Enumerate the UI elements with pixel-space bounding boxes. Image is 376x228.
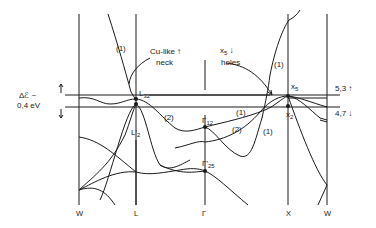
neck-label: neck [156, 58, 173, 67]
band-label-1d: (1) [274, 60, 284, 69]
band-plot [0, 0, 376, 228]
band-label-1b: (1) [236, 108, 246, 117]
level-upper-value: 5,3 ↑ [335, 84, 352, 93]
label-L32: L32 [139, 89, 150, 101]
cu-like-label: Cu-like ↑ [150, 47, 181, 56]
axis-label-gamma: Γ [202, 209, 206, 218]
band-label-1: (1) [116, 44, 126, 53]
axis-label-W2: W [324, 209, 331, 218]
axis-label-L: L [134, 209, 138, 218]
label-x5: x5 [291, 82, 298, 94]
band-label-2: (2) [164, 113, 174, 122]
label-x2: x2 [286, 110, 293, 122]
holes-label: holes [221, 58, 240, 67]
x5-holes-label: x5 ↓ [220, 46, 234, 58]
axis-label-W: W [76, 209, 83, 218]
label-L2-prime: L'2 [131, 128, 140, 140]
level-lower-value: 4,7 ↓ [335, 109, 352, 118]
delta-e-label: Δℰ ~ [19, 91, 36, 100]
band-label-1c: (1) [263, 127, 273, 136]
band-label-2b: (2) [232, 125, 242, 134]
band-structure-diagram: Δℰ ~ 0,4 eV Cu-like ↑ neck x5 ↓ holes L3… [0, 0, 376, 228]
label-gamma12: Γ12 [202, 116, 213, 128]
label-gamma25-prime: Γ'25 [202, 159, 215, 171]
delta-e-value: 0,4 eV [17, 101, 40, 110]
axis-label-X: X [286, 209, 291, 218]
